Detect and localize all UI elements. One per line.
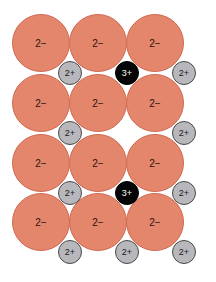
cation-2plus: 2+ <box>58 121 82 145</box>
cation-2plus: 2+ <box>58 61 82 85</box>
cation-2plus: 2+ <box>115 240 139 264</box>
cation-2plus: 2+ <box>172 61 196 85</box>
cation-3plus: 3+ <box>115 61 139 85</box>
cation-2plus: 2+ <box>58 181 82 205</box>
cation-3plus: 3+ <box>115 181 139 205</box>
cation-2plus: 2+ <box>58 240 82 264</box>
cation-2plus: 2+ <box>172 121 196 145</box>
cation-2plus: 2+ <box>172 240 196 264</box>
cation-2plus: 2+ <box>172 181 196 205</box>
